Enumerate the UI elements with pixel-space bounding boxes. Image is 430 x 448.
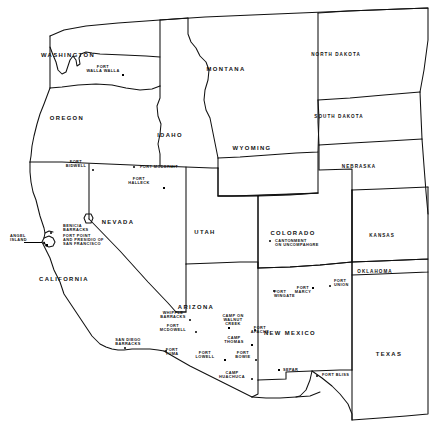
state-border-oklahoma-strip (352, 259, 428, 275)
fort-marker-fort (163, 187, 165, 189)
state-border-mt-south (218, 118, 319, 158)
fort-marker-fort (224, 359, 226, 361)
border-ca-mexico (164, 351, 252, 397)
state-border-kansas (352, 187, 428, 262)
coast-oregon (30, 88, 50, 162)
state-border-or-ca-nv (30, 162, 160, 166)
state-border-id-montana-north (160, 18, 188, 20)
state-border-nv-ca-diagonal (89, 219, 176, 312)
state-border-nm-south (258, 370, 352, 380)
fort-marker-camp-on (228, 327, 230, 329)
state-border-nm-north (258, 262, 352, 268)
state-border-sd-east (420, 92, 422, 139)
fort-marker-fort-point (46, 244, 48, 246)
texas-west-leg (296, 371, 312, 397)
map-outline-svg (0, 0, 430, 448)
state-border-wa-or (50, 84, 160, 90)
state-border-sd-ne (319, 139, 422, 145)
border-mexico-southwest (252, 392, 320, 398)
fort-marker-separ (278, 369, 280, 371)
state-border-texas (352, 272, 428, 420)
leader-line-0 (24, 242, 42, 243)
state-border-id-south (160, 166, 218, 168)
state-border-az-south (252, 380, 258, 397)
state-border-or-east (157, 86, 161, 166)
state-border-nd (318, 8, 428, 92)
border-canada (50, 8, 428, 36)
fort-marker-fort (312, 287, 314, 289)
border-tx-mexico-rio-grande (312, 371, 352, 420)
state-border-ne-east (422, 139, 428, 214)
state-border-idaho-east (188, 18, 218, 158)
state-border-ne-south (352, 187, 428, 190)
coast-california (30, 162, 164, 351)
state-border-nv-south (176, 264, 186, 312)
fort-marker-fort (122, 74, 124, 76)
state-border-nd-sd (318, 92, 420, 100)
state-border-wyoming (218, 152, 318, 196)
state-border-washington (50, 36, 160, 74)
fort-marker-camp (251, 344, 253, 346)
historical-fort-map: WASHINGTONOREGONIDAHOMONTANANORTH DAKOTA… (0, 0, 430, 448)
state-border-ut-south (186, 262, 258, 268)
state-border-ut-nv-corner (218, 168, 258, 196)
state-border-ne-west (319, 145, 352, 190)
state-border-colorado (258, 196, 352, 268)
